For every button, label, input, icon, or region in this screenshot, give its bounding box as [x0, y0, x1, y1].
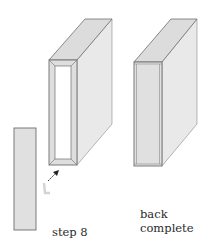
open-cabinet: [49, 19, 112, 165]
completed-front-panel: [134, 62, 162, 166]
complete-label-line1: back: [140, 208, 168, 221]
assembly-diagram: [0, 0, 209, 245]
complete-label-line2: complete: [140, 222, 194, 235]
step-label: step 8: [52, 226, 88, 239]
completed-cabinet: [134, 19, 197, 166]
cabinet-opening: [55, 66, 71, 159]
ghost-mark: [44, 183, 50, 193]
back-panel: [14, 128, 36, 230]
insert-arrow-icon: [48, 170, 59, 181]
